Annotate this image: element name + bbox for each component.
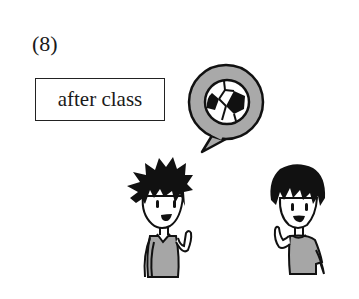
boy-spiky-hair xyxy=(127,157,193,277)
boy-short-hair xyxy=(270,164,325,274)
soccer-ball-icon xyxy=(205,80,249,124)
illustration xyxy=(0,0,359,299)
